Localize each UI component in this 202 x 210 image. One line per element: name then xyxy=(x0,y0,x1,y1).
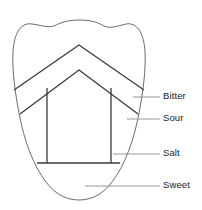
label-sweet: Sweet xyxy=(163,180,190,190)
tongue-outline-path xyxy=(13,20,145,200)
tongue-taste-map-diagram: Bitter Sour Salt Sweet xyxy=(0,0,202,210)
label-sour: Sour xyxy=(163,113,183,123)
label-bitter: Bitter xyxy=(163,91,186,101)
label-salt: Salt xyxy=(163,148,180,158)
